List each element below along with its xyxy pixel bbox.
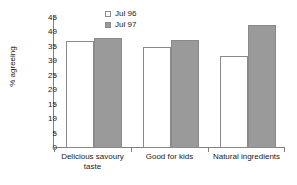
y-axis-tick-label: 30 <box>27 56 57 66</box>
bar <box>171 40 199 148</box>
bar <box>220 56 248 148</box>
bar-group <box>131 18 208 148</box>
x-axis-category-label: Natural ingredients <box>208 152 285 172</box>
y-axis-tick-label: 15 <box>27 100 57 110</box>
bar <box>248 25 276 148</box>
plot-area: 051015202530354045 <box>53 18 285 148</box>
bar <box>143 47 171 148</box>
y-axis-tick-label: 40 <box>27 27 57 37</box>
bar-chart: % agreeing Jul 96 Jul 97 051015202530354… <box>0 0 297 185</box>
x-axis-category-label: Delicious savoury taste <box>54 152 131 172</box>
x-axis-labels: Delicious savoury tasteGood for kidsNatu… <box>54 152 285 172</box>
y-axis-title: % agreeing <box>8 22 17 112</box>
bar <box>94 38 122 148</box>
hollow-square-swatch <box>105 11 111 17</box>
y-axis-tick-label: 20 <box>27 85 57 95</box>
y-axis-tick-label: 5 <box>27 129 57 139</box>
bar <box>66 41 94 148</box>
bar-group <box>54 18 131 148</box>
y-axis-tick-label: 25 <box>27 71 57 81</box>
y-axis-tick-label: 45 <box>27 13 57 23</box>
x-axis-category-label: Good for kids <box>131 152 208 172</box>
y-axis-tick-label: 0 <box>27 143 57 153</box>
y-axis-tick-label: 35 <box>27 42 57 52</box>
bar-group <box>208 18 285 148</box>
bar-groups <box>54 18 285 148</box>
y-axis-tick-label: 10 <box>27 114 57 124</box>
